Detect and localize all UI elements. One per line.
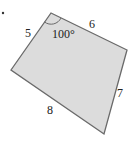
diagram-svg: 5 6 100° 7 8 bbox=[0, 0, 133, 142]
marker-dot bbox=[2, 12, 4, 14]
side-label-top-left: 5 bbox=[25, 26, 31, 40]
side-label-top-right: 6 bbox=[89, 17, 95, 31]
side-label-bottom: 8 bbox=[47, 103, 53, 117]
angle-label: 100° bbox=[52, 27, 75, 41]
side-label-right: 7 bbox=[117, 86, 123, 100]
quadrilateral-figure: 5 6 100° 7 8 bbox=[0, 0, 133, 142]
